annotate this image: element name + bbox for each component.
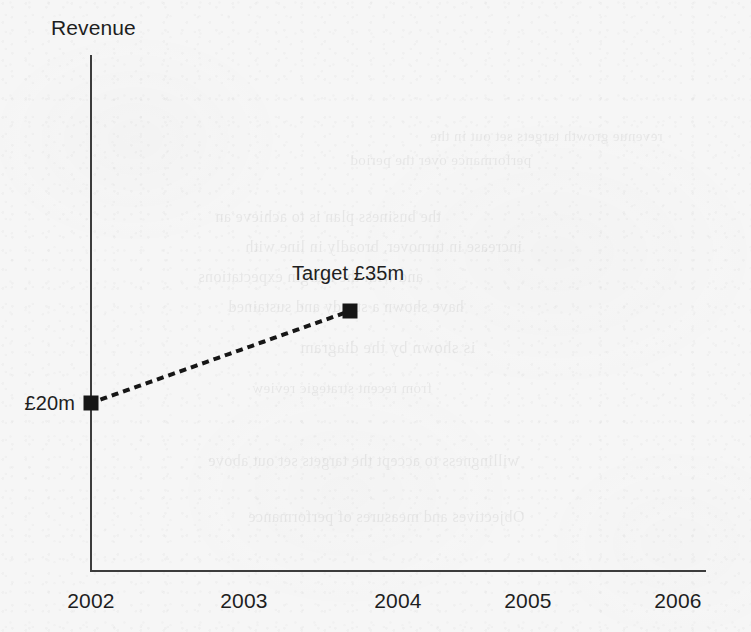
y-axis-title: Revenue	[51, 16, 136, 40]
data-point-marker-target[interactable]	[343, 304, 358, 319]
x-tick-label: 2004	[374, 589, 422, 613]
chart-plot-area: Revenue £20m Target £35m 2002 2003 2004 …	[0, 0, 751, 632]
data-point-marker-start[interactable]	[84, 396, 99, 411]
x-tick-label: 2005	[504, 589, 552, 613]
data-label-start: £20m	[25, 392, 75, 415]
y-axis-line	[90, 55, 92, 572]
trend-line-dotted	[0, 0, 751, 632]
data-label-target: Target £35m	[292, 262, 404, 285]
x-axis-line	[90, 570, 706, 572]
chart-page: revenue growth targets set out in the pe…	[0, 0, 751, 632]
x-tick-label: 2003	[220, 589, 268, 613]
x-tick-label: 2006	[654, 589, 702, 613]
x-tick-label: 2002	[67, 589, 115, 613]
